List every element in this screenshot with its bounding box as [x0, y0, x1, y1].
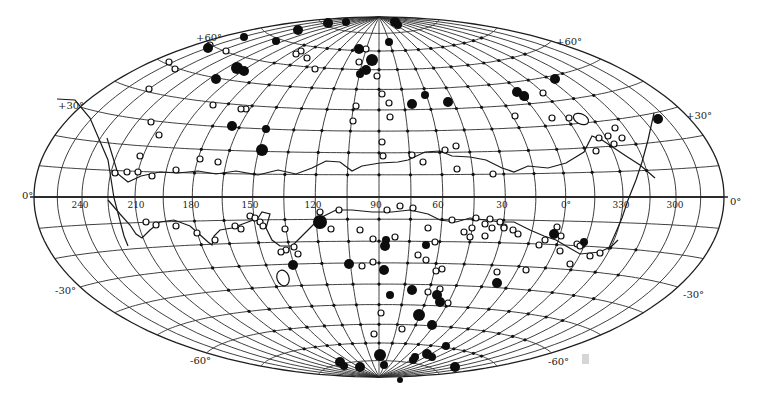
filled-circle-object — [240, 33, 248, 41]
grid-sample-dot — [253, 172, 256, 175]
grid-sample-dot — [222, 219, 225, 222]
grid-sample-dot — [211, 266, 214, 269]
filled-circle-object — [366, 54, 378, 66]
grid-sample-dot — [341, 323, 344, 326]
grid-sample-dot — [341, 67, 344, 70]
grid-sample-dot — [480, 36, 483, 39]
grid-sample-dot — [283, 218, 286, 221]
grid-sample-dot — [300, 284, 303, 287]
grid-sample-dot — [364, 342, 367, 345]
grid-sample-dot — [314, 173, 317, 176]
open-circle-object — [380, 153, 386, 159]
grid-sample-dot — [634, 143, 637, 146]
grid-sample-dot — [403, 283, 406, 286]
open-circle-object — [194, 230, 200, 236]
grid-sample-dot — [227, 289, 230, 292]
latitude-label-lat-minus60-left: -60° — [190, 355, 211, 366]
open-circle-object — [153, 222, 159, 228]
grid-sample-dot — [498, 241, 501, 244]
open-circle-object — [374, 73, 380, 79]
filled-circle-object — [580, 238, 588, 246]
filled-circle-object — [653, 114, 663, 124]
open-circle-object — [353, 103, 359, 109]
latitude-label-lat-zero-right: 0° — [730, 196, 741, 207]
right-declination-curve — [608, 113, 654, 250]
open-circle-object — [173, 223, 179, 229]
latitude-label-lat-plus60-right: +60° — [556, 36, 582, 47]
grid-sample-dot — [417, 48, 420, 51]
longitude-label: 120 — [304, 200, 321, 210]
grid-sample-dot — [349, 129, 352, 132]
grid-sample-dot — [544, 125, 547, 128]
filled-circle-object — [342, 18, 350, 26]
grid-sample-dot — [555, 243, 558, 246]
grid-sample-dot — [377, 261, 380, 264]
open-circle-object — [567, 261, 573, 267]
open-circle-object — [148, 119, 154, 125]
grid-sample-dot — [466, 327, 469, 330]
grid-sample-dot — [314, 45, 317, 48]
grid-sample-dot — [490, 127, 493, 130]
open-circle-object — [392, 234, 398, 240]
open-circle-object — [425, 225, 431, 231]
grid-sample-dot — [440, 173, 443, 176]
grid-sample-dot — [551, 100, 554, 103]
grid-sample-dot — [251, 287, 254, 290]
sky-map: +60°+60°+30°+30°0°0°-30°-30°-60°-60°2402… — [0, 0, 758, 394]
filled-circle-object — [407, 285, 417, 295]
grid-sample-dot — [404, 49, 407, 52]
grid-sample-dot — [592, 297, 595, 300]
grid-sample-dot — [355, 303, 358, 306]
latitude-label-lat-minus30-left: -30° — [55, 285, 76, 296]
grid-sample-dot — [429, 108, 432, 111]
grid-sample-dot — [466, 306, 469, 309]
latitude-label-lat-zero-left: 0° — [22, 190, 33, 201]
grid-sample-dot — [228, 149, 231, 152]
open-circle-object — [387, 114, 393, 120]
longitude-label: 240 — [71, 200, 88, 210]
latitude-label-lat-plus30-right: +30° — [686, 110, 712, 121]
grid-sample-dot — [502, 172, 505, 175]
grid-sample-dot — [338, 343, 341, 346]
open-circle-object — [487, 216, 493, 222]
grid-sample-dot — [377, 68, 380, 71]
grid-sample-dot — [396, 68, 399, 71]
grid-sample-dot — [504, 287, 507, 290]
grid-sample-dot — [227, 102, 230, 105]
open-circle-object — [420, 159, 426, 165]
grid-sample-dot — [618, 170, 621, 173]
grid-sample-dot — [310, 86, 313, 89]
grid-sample-dot — [377, 240, 380, 243]
open-circle-object — [449, 217, 455, 223]
filled-circle-object — [382, 236, 390, 244]
grid-sample-dot — [275, 106, 278, 109]
open-circle-object — [512, 113, 518, 119]
filled-circle-object — [203, 43, 213, 53]
open-circle-object — [399, 326, 405, 332]
open-circle-object — [454, 166, 460, 172]
grid-sample-dot — [338, 48, 341, 51]
grid-sample-dot — [545, 75, 548, 78]
longitude-label: 330 — [612, 200, 629, 210]
grid-sample-dot — [377, 49, 380, 52]
open-circle-object — [442, 147, 448, 153]
grid-sample-dot — [292, 128, 295, 131]
grid-sample-dot — [289, 64, 292, 67]
grid-sample-dot — [400, 303, 403, 306]
grid-sample-dot — [480, 285, 483, 288]
grid-sample-dot — [273, 61, 276, 64]
open-circle-object — [112, 170, 118, 176]
grid-sample-dot — [487, 308, 490, 311]
filled-circle-object — [492, 278, 502, 288]
open-circle-object — [291, 244, 297, 250]
grid-sample-dot — [487, 83, 490, 86]
grid-sample-dot — [527, 312, 530, 315]
filled-circle-object — [521, 93, 529, 101]
grid-sample-dot — [617, 117, 620, 120]
grid-sample-dot — [287, 150, 290, 153]
grid-sample-dot — [517, 126, 520, 129]
open-circle-object — [293, 51, 299, 57]
grid-sample-dot — [222, 172, 225, 175]
grid-sample-dot — [440, 218, 443, 221]
filled-circle-object — [550, 74, 560, 84]
